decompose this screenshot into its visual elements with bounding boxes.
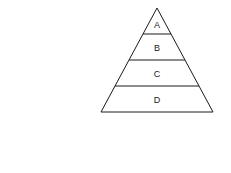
pyramid-diagram: A B C D — [0, 0, 231, 173]
level-label-c: C — [154, 69, 161, 79]
level-label-d: D — [154, 95, 161, 105]
level-label-a: A — [154, 20, 160, 30]
level-label-b: B — [154, 43, 160, 53]
